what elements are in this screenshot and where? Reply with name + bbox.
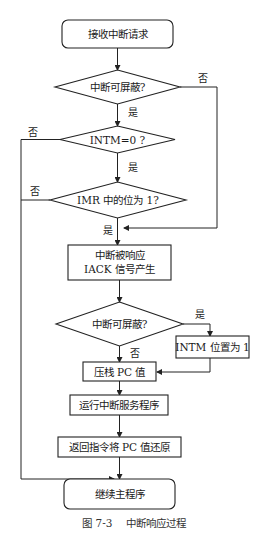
process-ack-line2: IACK 信号产生 [84,263,155,275]
d4-no-label: 否 [130,348,140,359]
process-run-isr-label: 运行中断服务程序 [79,399,159,411]
process-restore-pc: 返回指令将 PC 值还原 [58,437,181,457]
decision-intm: INTM=0 ? [60,126,175,153]
decision-maskable-1: 中断可屏蔽? [55,70,180,104]
process-set-intm-label: INTM 位置为 1 [175,341,249,353]
decision-maskable-1-label: 中断可屏蔽? [90,81,146,93]
decision-maskable-2-label: 中断可屏蔽? [92,318,148,330]
decision-intm-label: INTM=0 ? [90,134,146,146]
d2-no-label: 否 [28,127,38,138]
d1-no-label: 否 [198,73,208,84]
arrow-intm-push [157,358,210,372]
d4-yes-label: 是 [195,309,205,320]
process-set-intm: INTM 位置为 1 [175,336,249,358]
process-restore-pc-label: 返回指令将 PC 值还原 [69,441,171,453]
decision-imr: IMR 中的位为 1? [50,182,186,218]
d2-yes-label: 是 [128,162,138,173]
decision-maskable-2: 中断可屏蔽? [56,302,183,346]
process-ack-line1: 中断被响应 [95,249,146,261]
figure-caption: 图 7-3 中断响应过程 [82,517,187,529]
end-terminal: 继续主程序 [64,479,175,509]
d3-yes-label: 是 [103,225,113,236]
d1-yes-label: 是 [128,107,138,118]
start-label: 接收中断请求 [88,28,149,40]
end-label: 继续主程序 [95,488,145,500]
process-push-pc-label: 压栈 PC 值 [94,366,147,378]
process-push-pc: 压栈 PC 值 [83,362,156,381]
start-terminal: 接收中断请求 [62,20,173,48]
decision-imr-label: IMR 中的位为 1? [77,194,159,206]
d3-no-label: 否 [30,186,40,197]
process-run-isr: 运行中断服务程序 [70,395,168,415]
process-interrupt-acknowledged: 中断被响应 IACK 信号产生 [68,245,171,280]
flowchart: 接收中断请求 中断可屏蔽? 否 是 INTM=0 ? 否 是 IMR 中的位为 … [0,0,268,539]
arrow-d4-yes [183,324,210,336]
